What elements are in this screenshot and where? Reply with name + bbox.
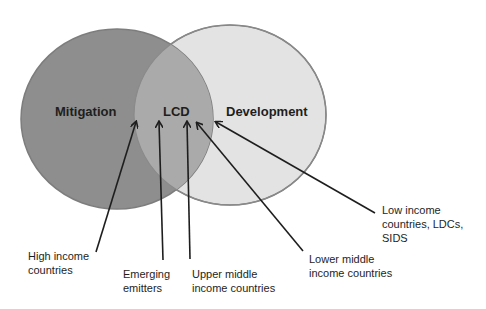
callout-upper-middle: Upper middle income countries <box>192 268 276 294</box>
venn-diagram: Mitigation LCD Development High income c… <box>0 0 486 309</box>
svg-text:income countries: income countries <box>309 267 393 279</box>
development-label: Development <box>226 104 308 119</box>
svg-text:Emerging: Emerging <box>123 268 170 280</box>
svg-text:countries, LDCs,: countries, LDCs, <box>382 218 463 230</box>
svg-text:High income: High income <box>28 250 89 262</box>
callout-lower-middle: Lower middle income countries <box>309 253 393 279</box>
callout-high-income: High income countries <box>28 250 89 276</box>
mitigation-label: Mitigation <box>55 104 116 119</box>
callout-emerging-emitters: Emerging emitters <box>123 268 170 294</box>
svg-text:Lower middle: Lower middle <box>309 253 374 265</box>
svg-text:Low income: Low income <box>382 204 441 216</box>
svg-text:Upper middle: Upper middle <box>192 268 257 280</box>
lcd-label: LCD <box>163 104 190 119</box>
svg-text:countries: countries <box>28 264 73 276</box>
svg-text:SIDS: SIDS <box>382 232 408 244</box>
callout-low-income: Low income countries, LDCs, SIDS <box>382 204 463 244</box>
svg-text:emitters: emitters <box>123 282 163 294</box>
svg-text:income countries: income countries <box>192 282 276 294</box>
